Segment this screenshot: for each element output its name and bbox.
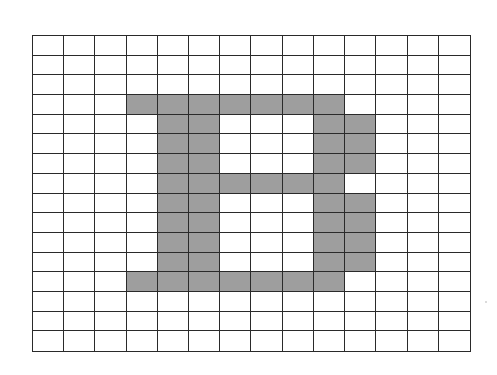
- grid-cell: [345, 174, 376, 194]
- grid-cell: [283, 36, 314, 56]
- grid-cell: [158, 36, 189, 56]
- grid-cell-filled: [220, 272, 251, 292]
- grid-cell: [251, 312, 282, 332]
- grid-cell: [220, 154, 251, 174]
- grid-cell: [251, 331, 282, 351]
- grid-cell: [376, 36, 407, 56]
- grid-cell: [251, 292, 282, 312]
- grid-cell: [158, 56, 189, 76]
- grid-cell: [439, 95, 470, 115]
- grid-cell-filled: [283, 174, 314, 194]
- grid-cell: [33, 272, 64, 292]
- grid-cell: [376, 115, 407, 135]
- grid-cell: [283, 194, 314, 214]
- grid-cell: [220, 36, 251, 56]
- grid-cell: [314, 75, 345, 95]
- grid-cell: [33, 292, 64, 312]
- grid-cell: [408, 134, 439, 154]
- grid-cell: [376, 292, 407, 312]
- grid-cell: [127, 213, 158, 233]
- grid-cell: [376, 312, 407, 332]
- grid-cell: [345, 312, 376, 332]
- grid-cell-filled: [158, 233, 189, 253]
- grid-cell: [64, 312, 95, 332]
- grid-cell-filled: [189, 213, 220, 233]
- grid-cell: [158, 292, 189, 312]
- grid-cell: [95, 272, 126, 292]
- grid-cell-filled: [220, 174, 251, 194]
- grid-cell: [64, 134, 95, 154]
- grid-cell: [376, 233, 407, 253]
- grid-cell: [251, 154, 282, 174]
- grid-cell: [220, 56, 251, 76]
- grid-cell: [220, 75, 251, 95]
- grid-cell: [189, 56, 220, 76]
- grid-cell: [408, 292, 439, 312]
- grid-cell: [220, 312, 251, 332]
- grid-cell: [439, 174, 470, 194]
- grid-cell-filled: [345, 134, 376, 154]
- grid-cell: [283, 253, 314, 273]
- grid-cell: [33, 36, 64, 56]
- grid-cell: [127, 253, 158, 273]
- grid-cell: [127, 312, 158, 332]
- grid-cell: [345, 95, 376, 115]
- grid-cell: [95, 194, 126, 214]
- grid-cell: [64, 272, 95, 292]
- grid-cell: [220, 194, 251, 214]
- grid-cell-filled: [345, 233, 376, 253]
- grid-cell: [64, 95, 95, 115]
- grid-cell: [95, 134, 126, 154]
- grid-cell: [95, 331, 126, 351]
- grid-cell: [220, 292, 251, 312]
- grid-cell-filled: [158, 95, 189, 115]
- grid-cell-filled: [189, 253, 220, 273]
- grid-cell-filled: [189, 174, 220, 194]
- grid-cell-filled: [158, 194, 189, 214]
- grid-cell: [439, 56, 470, 76]
- grid-cell-filled: [158, 154, 189, 174]
- grid-cell: [408, 213, 439, 233]
- grid-cell: [64, 253, 95, 273]
- grid-cell: [376, 272, 407, 292]
- grid-cell: [439, 253, 470, 273]
- grid-cell: [439, 115, 470, 135]
- grid-cell: [64, 292, 95, 312]
- grid-cell-filled: [314, 134, 345, 154]
- grid-cell: [251, 213, 282, 233]
- grid-cell: [33, 331, 64, 351]
- grid-cell: [127, 233, 158, 253]
- grid-cell: [439, 272, 470, 292]
- grid-cell: [64, 174, 95, 194]
- grid-cell: [314, 331, 345, 351]
- grid-cell: [408, 253, 439, 273]
- grid-cell: [408, 75, 439, 95]
- grid-cell: [64, 154, 95, 174]
- grid-cell: [95, 174, 126, 194]
- grid-cell: [220, 213, 251, 233]
- grid-cell: [439, 312, 470, 332]
- grid-cell: [33, 213, 64, 233]
- grid-cell: [345, 272, 376, 292]
- grid-cell-filled: [158, 174, 189, 194]
- grid-cell-filled: [189, 233, 220, 253]
- grid-cell-filled: [189, 115, 220, 135]
- pixel-grid: [32, 35, 471, 352]
- grid-cell: [95, 154, 126, 174]
- grid-cell: [439, 154, 470, 174]
- grid-cell-filled: [158, 134, 189, 154]
- grid-cell-filled: [220, 95, 251, 115]
- grid-cell: [220, 115, 251, 135]
- grid-cell: [189, 331, 220, 351]
- grid-cell: [127, 134, 158, 154]
- grid-cell: [376, 134, 407, 154]
- grid-cell: [283, 56, 314, 76]
- grid-cell-filled: [283, 95, 314, 115]
- grid-cell: [95, 115, 126, 135]
- grid-cell: [283, 75, 314, 95]
- grid-cell: [64, 75, 95, 95]
- grid-cell-filled: [345, 194, 376, 214]
- grid-cell-filled: [345, 115, 376, 135]
- grid-cell: [283, 233, 314, 253]
- grid-cell: [64, 36, 95, 56]
